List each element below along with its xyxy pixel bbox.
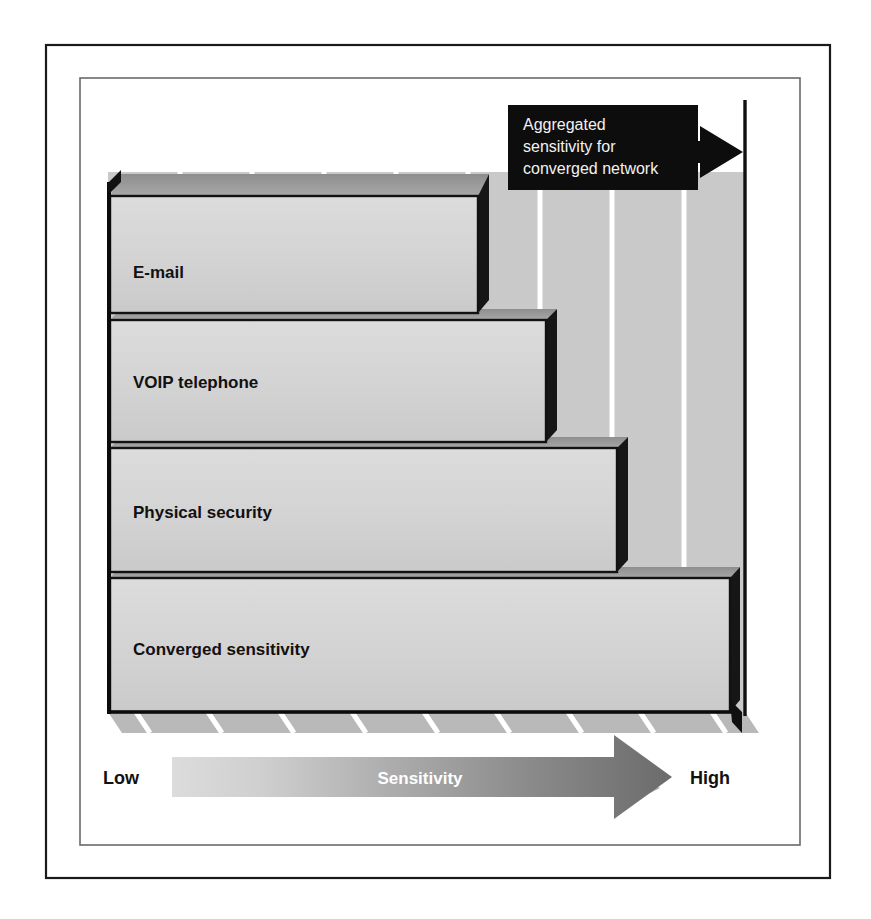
floor-strip: [108, 712, 759, 733]
bar-label-email: E-mail: [133, 263, 184, 282]
bar-email[interactable]: E-mail: [110, 174, 489, 313]
callout-line-2: sensitivity for: [523, 138, 616, 155]
bar-side-face: [617, 437, 628, 572]
bar-label-converged-sensitivity: Converged sensitivity: [133, 640, 310, 659]
legend-arrow-label: Sensitivity: [377, 769, 463, 788]
bar-converged-sensitivity[interactable]: Converged sensitivity: [110, 567, 740, 712]
sensitivity-bar-chart: Converged sensitivity Physical security …: [0, 0, 871, 919]
bar-top-face: [110, 174, 489, 196]
bar-side-face: [730, 567, 740, 712]
legend-high-label: High: [690, 768, 730, 788]
callout-line-1: Aggregated: [523, 116, 606, 133]
plot-area: Converged sensitivity Physical security …: [107, 100, 759, 733]
legend-low-label: Low: [103, 768, 140, 788]
callout-line-3: converged network: [523, 160, 659, 177]
bar-label-voip-telephone: VOIP telephone: [133, 373, 258, 392]
bar-label-physical-security: Physical security: [133, 503, 272, 522]
bar-side-face: [546, 309, 557, 442]
bar-voip-telephone[interactable]: VOIP telephone: [110, 309, 557, 442]
bar-side-face: [478, 174, 489, 313]
bar-front-face: [110, 196, 478, 313]
figure-root: Converged sensitivity Physical security …: [0, 0, 871, 919]
bar-physical-security[interactable]: Physical security: [110, 437, 628, 572]
